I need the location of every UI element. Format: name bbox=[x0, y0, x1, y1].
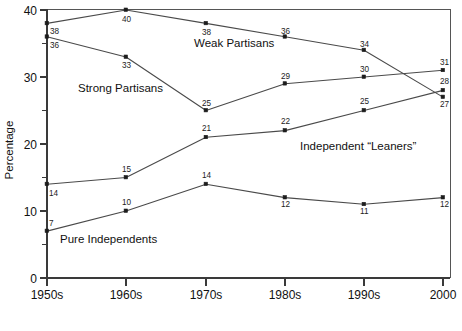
data-label-strong-4: 30 bbox=[360, 65, 370, 74]
data-point-weak-4 bbox=[362, 48, 365, 51]
data-label-weak-1: 40 bbox=[122, 15, 132, 24]
series-annotation-weak-partisans: Weak Partisans bbox=[194, 37, 275, 49]
data-label-pure-0: 7 bbox=[49, 219, 54, 228]
data-point-leaners-1 bbox=[124, 176, 127, 179]
data-label-leaners-0: 14 bbox=[49, 189, 59, 198]
data-label-weak-0: 38 bbox=[50, 27, 60, 36]
data-point-strong-3 bbox=[283, 82, 286, 85]
data-label-leaners-5: 28 bbox=[440, 77, 450, 86]
data-label-leaners-3: 22 bbox=[281, 117, 291, 126]
data-label-pure-2: 14 bbox=[202, 171, 212, 180]
y-tick-label-30: 30 bbox=[24, 71, 38, 85]
line-chart: 40 30 20 10 0 Percentage 1950s 1960s 197… bbox=[0, 0, 462, 331]
data-point-pure-4 bbox=[362, 202, 365, 205]
data-point-leaners-5 bbox=[441, 88, 444, 91]
x-tick-label-1990s: 1990s bbox=[348, 288, 381, 302]
y-axis: 40 30 20 10 0 Percentage bbox=[3, 4, 47, 286]
series-independent-leaners: 14 15 21 22 25 28 Independent “Leaners” bbox=[45, 77, 449, 198]
data-point-strong-1 bbox=[124, 55, 127, 58]
data-label-weak-2: 38 bbox=[202, 28, 212, 37]
y-axis-title: Percentage bbox=[3, 121, 15, 180]
data-label-strong-5: 31 bbox=[440, 58, 450, 67]
data-point-pure-1 bbox=[124, 209, 127, 212]
data-point-leaners-4 bbox=[362, 109, 365, 112]
data-point-strong-0 bbox=[45, 35, 48, 38]
data-label-leaners-1: 15 bbox=[122, 165, 132, 174]
data-label-leaners-2: 21 bbox=[202, 124, 212, 133]
data-point-weak-5 bbox=[441, 95, 444, 98]
data-label-strong-2: 25 bbox=[202, 99, 212, 108]
y-tick-label-0: 0 bbox=[30, 272, 37, 286]
y-tick-label-20: 20 bbox=[24, 138, 38, 152]
data-point-weak-1 bbox=[124, 8, 127, 11]
x-tick-label-1960s: 1960s bbox=[110, 288, 143, 302]
data-point-pure-3 bbox=[283, 196, 286, 199]
data-point-weak-0 bbox=[45, 21, 48, 24]
data-label-pure-4: 11 bbox=[360, 207, 369, 216]
series-annotation-strong-partisans: Strong Partisans bbox=[78, 82, 163, 94]
data-point-strong-4 bbox=[362, 75, 365, 78]
data-label-pure-3: 12 bbox=[281, 200, 291, 209]
y-tick-label-10: 10 bbox=[24, 205, 38, 219]
series-annotation-independent-leaners: Independent “Leaners” bbox=[300, 140, 417, 152]
data-point-strong-2 bbox=[204, 109, 207, 112]
x-tick-label-1950s: 1950s bbox=[31, 288, 64, 302]
data-label-strong-1: 33 bbox=[122, 61, 132, 70]
y-tick-label-40: 40 bbox=[24, 4, 38, 18]
data-label-weak-4: 34 bbox=[360, 40, 370, 49]
chart-root: 40 30 20 10 0 Percentage 1950s 1960s 197… bbox=[0, 0, 462, 331]
data-label-strong-3: 29 bbox=[281, 72, 291, 81]
data-point-leaners-0 bbox=[45, 182, 48, 185]
data-label-leaners-4: 25 bbox=[360, 97, 370, 106]
x-axis: 1950s 1960s 1970s 1980s 1990s 2000 bbox=[31, 278, 457, 302]
series-line-pure bbox=[47, 184, 443, 231]
series-pure-independents: 7 10 14 12 11 12 Pure Independents bbox=[45, 171, 449, 245]
data-point-pure-0 bbox=[45, 229, 48, 232]
data-label-pure-1: 10 bbox=[122, 198, 132, 207]
data-point-pure-5 bbox=[441, 196, 444, 199]
data-point-leaners-3 bbox=[283, 129, 286, 132]
x-tick-label-2000: 2000 bbox=[430, 288, 457, 302]
series-annotation-pure-independents: Pure Independents bbox=[60, 233, 157, 245]
data-label-strong-0: 36 bbox=[50, 41, 60, 50]
data-point-leaners-2 bbox=[204, 135, 207, 138]
x-tick-label-1980s: 1980s bbox=[269, 288, 302, 302]
data-point-strong-5 bbox=[441, 68, 444, 71]
data-label-weak-5: 27 bbox=[440, 100, 450, 109]
series-line-leaners bbox=[47, 90, 443, 184]
data-label-pure-5: 12 bbox=[440, 200, 450, 209]
data-label-weak-3: 36 bbox=[281, 27, 291, 36]
data-point-pure-2 bbox=[204, 182, 207, 185]
data-point-weak-2 bbox=[204, 21, 207, 24]
x-tick-label-1970s: 1970s bbox=[190, 288, 223, 302]
